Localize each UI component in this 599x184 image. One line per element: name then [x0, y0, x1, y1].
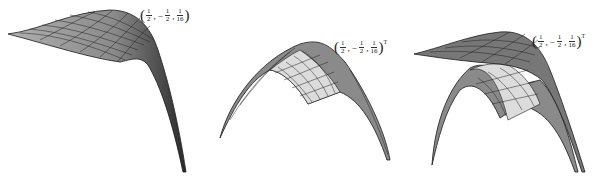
surface-mesh-3 [410, 0, 599, 184]
surface-plot-1: ( 12 ,− 12 , 116 ) [0, 0, 200, 184]
point-label-2: ( 12 ,− 12 , 116 )T [334, 40, 387, 55]
surface-plot-2: ( 12 ,− 12 , 116 )T [210, 0, 410, 184]
surface-mesh-2 [210, 0, 410, 184]
surface-plot-3: ( 12 ,− 12 , 116 )T [410, 0, 599, 184]
point-label-1: ( 12 ,− 12 , 116 ) [140, 8, 190, 23]
point-label-3: ( 12 ,− 12 , 116 )T [532, 34, 585, 49]
surface-mesh-1 [0, 0, 200, 184]
